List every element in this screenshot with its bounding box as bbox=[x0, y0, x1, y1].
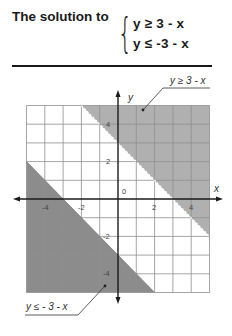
y-axis-label: y bbox=[128, 92, 133, 103]
x-tick: -4 bbox=[42, 203, 49, 212]
inequality-graph bbox=[0, 0, 232, 336]
y-tick: -2 bbox=[103, 232, 110, 241]
lower-region-label: y ≤ - 3 - x bbox=[26, 301, 68, 312]
x-tick: -2 bbox=[78, 203, 85, 212]
upper-region-marker bbox=[142, 109, 145, 112]
x-axis-label: x bbox=[214, 183, 219, 194]
lower-region-marker bbox=[104, 285, 107, 288]
y-tick: -4 bbox=[103, 269, 110, 278]
origin-label: 0 bbox=[122, 187, 126, 196]
x-tick: 2 bbox=[152, 203, 156, 212]
x-tick: 4 bbox=[189, 203, 193, 212]
upper-region-label: y ≥ 3 - x bbox=[170, 75, 206, 86]
y-tick: 4 bbox=[106, 120, 110, 129]
y-tick: 2 bbox=[106, 157, 110, 166]
